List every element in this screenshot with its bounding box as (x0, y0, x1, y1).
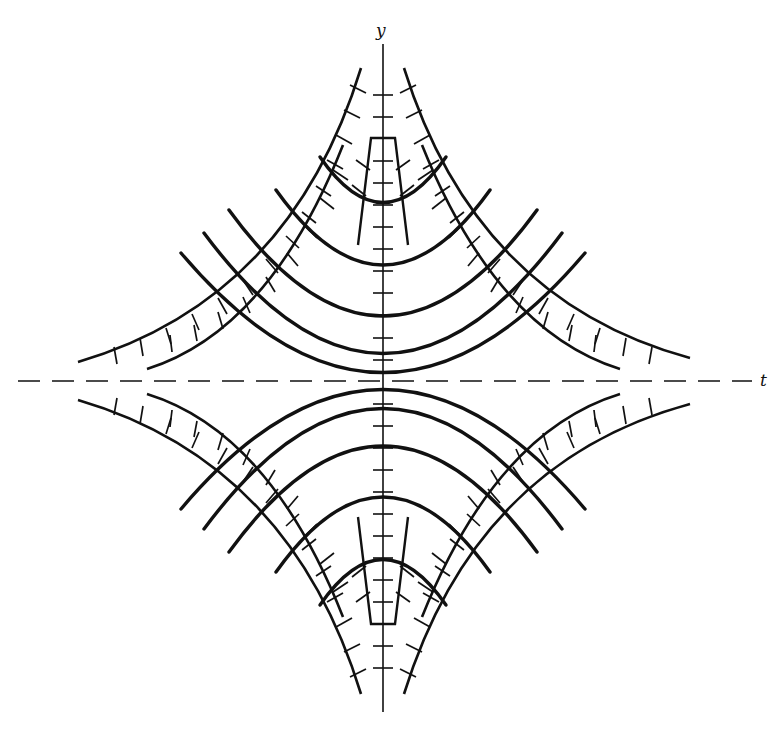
t-axis-label: t (760, 370, 767, 390)
y-axis-label: y (375, 20, 386, 40)
axes: y t (18, 20, 767, 712)
direction-field-figure: y t (0, 0, 782, 733)
